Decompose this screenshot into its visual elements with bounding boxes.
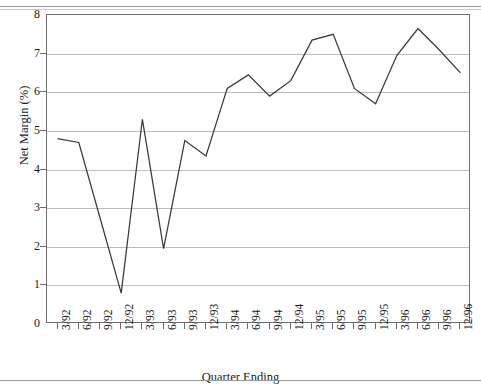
x-tick-label-6-92: 6/92 [82,310,94,330]
x-axis-title: Quarter Ending [0,370,481,385]
chart-figure: Net Margin (%) 012345678 3/926/929/9212/… [0,0,481,392]
y-tick-label-4: 4 [6,163,40,175]
x-tick-label-3-92: 3/92 [61,310,73,330]
x-tick-mark-9-93 [184,323,185,329]
y-tick-label-6: 6 [6,85,40,97]
x-tick-mark-9-94 [269,323,270,329]
x-tick-mark-9-96 [438,323,439,329]
y-tick-label-7: 7 [6,47,40,59]
x-tick-mark-6-92 [78,323,79,329]
x-tick-label-3-95: 3/95 [315,310,327,330]
x-tick-mark-12-92 [120,323,121,329]
x-tick-label-9-94: 9/94 [273,310,285,330]
page-top-rule-secondary [0,9,481,10]
x-tick-label-3-93: 3/93 [145,310,157,330]
net-margin-line [58,29,461,294]
y-tick-label-8: 8 [6,8,40,20]
page-bottom-rule [0,380,481,381]
x-tick-label-6-95: 6/95 [336,310,348,330]
data-line-svg [47,15,471,324]
cutoff-title-text [188,0,252,5]
y-tick-label-0: 0 [6,317,40,329]
x-tick-mark-3-93 [141,323,142,329]
x-tick-mark-6-95 [332,323,333,329]
x-tick-label-9-96: 9/96 [442,310,454,330]
x-tick-mark-3-92 [57,323,58,329]
x-tick-mark-6-93 [163,323,164,329]
x-tick-label-9-92: 9/92 [103,310,115,330]
x-tick-mark-9-95 [353,323,354,329]
x-tick-mark-6-94 [247,323,248,329]
x-tick-label-3-96: 3/96 [400,310,412,330]
y-tick-label-2: 2 [6,240,40,252]
x-tick-label-6-96: 6/96 [421,310,433,330]
x-tick-mark-3-96 [396,323,397,329]
y-axis-ticks: 012345678 [0,0,40,323]
x-tick-label-12-96: 12/96 [463,304,475,330]
x-tick-label-6-94: 6/94 [251,310,263,330]
x-tick-mark-12-96 [459,323,460,329]
x-tick-mark-3-95 [311,323,312,329]
x-tick-label-3-94: 3/94 [230,310,242,330]
x-tick-mark-9-92 [99,323,100,329]
page-top-rule [0,6,481,7]
x-tick-mark-12-93 [205,323,206,329]
x-tick-mark-12-94 [290,323,291,329]
y-tick-label-3: 3 [6,201,40,213]
x-tick-mark-12-95 [375,323,376,329]
plot-area [46,14,470,323]
x-tick-mark-6-96 [417,323,418,329]
x-tick-mark-3-94 [226,323,227,329]
y-tick-label-5: 5 [6,124,40,136]
x-tick-label-12-92: 12/92 [124,304,136,330]
y-tick-label-1: 1 [6,278,40,290]
x-tick-label-12-93: 12/93 [209,304,221,330]
x-tick-label-9-93: 9/93 [188,310,200,330]
x-tick-label-6-93: 6/93 [167,310,179,330]
x-tick-label-12-94: 12/94 [294,304,306,330]
x-tick-label-12-95: 12/95 [379,304,391,330]
x-tick-label-9-95: 9/95 [357,310,369,330]
